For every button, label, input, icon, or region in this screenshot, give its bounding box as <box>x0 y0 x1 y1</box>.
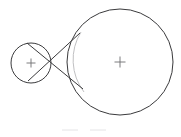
geometry-diagram <box>0 0 181 137</box>
small-circle-center-marker <box>27 59 36 68</box>
figure-canvas <box>0 0 181 137</box>
large-circle-center-marker <box>115 57 126 68</box>
lower-internal-tangent <box>28 33 80 81</box>
inner-faint-arc <box>73 32 84 92</box>
